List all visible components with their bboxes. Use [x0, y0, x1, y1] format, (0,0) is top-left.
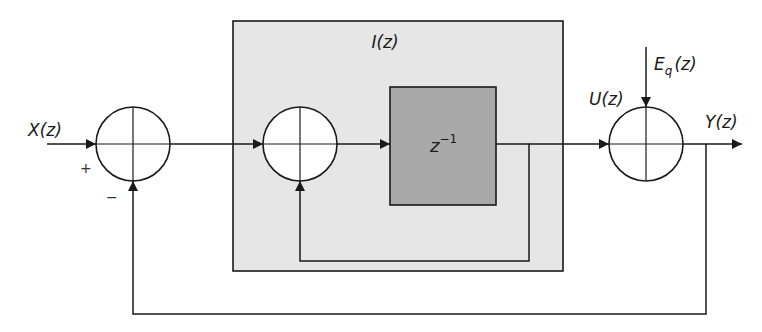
- delay-block: [390, 87, 496, 205]
- sum-input-junction: [96, 107, 170, 181]
- block-diagram: I(z) z−1 X(z) + − U(z) Eq(z) Y(z): [0, 0, 762, 332]
- sum-noise-junction: [609, 107, 683, 181]
- noise-label: Eq(z): [654, 54, 697, 78]
- input-label: X(z): [27, 120, 62, 140]
- integrator-output-label: U(z): [589, 89, 624, 109]
- sum-integrator-junction: [263, 107, 337, 181]
- output-label: Y(z): [705, 112, 738, 132]
- plus-sign: +: [80, 160, 92, 176]
- integrator-label: I(z): [371, 32, 398, 52]
- minus-sign: −: [106, 189, 118, 205]
